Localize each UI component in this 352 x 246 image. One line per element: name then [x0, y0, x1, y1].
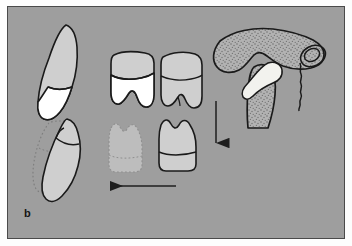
tmj-group [214, 29, 330, 129]
tympanic-suture-line [299, 63, 302, 111]
lower-incisor-body [42, 119, 80, 201]
upper-left-molar-group [111, 52, 154, 107]
lower-ghost-molar-group [109, 124, 142, 172]
upper-right-molar-fissure [178, 97, 180, 106]
panel-label: b [24, 208, 31, 219]
figure-panel: b [7, 6, 345, 239]
figure-root: b [0, 0, 352, 246]
upper-incisor-group [38, 25, 78, 120]
upper-right-molar-group [161, 52, 202, 108]
figure-illustration [8, 7, 344, 238]
lower-ghost-molar-body [109, 124, 142, 172]
lower-right-molar-group [159, 120, 196, 171]
lower-right-molar-body [159, 120, 196, 171]
lower-incisor-group [42, 119, 80, 201]
